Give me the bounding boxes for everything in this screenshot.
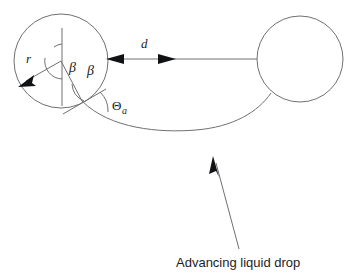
contact-angle-diagram: r β β Θ a d Advancing liquid drop — [0, 0, 356, 279]
radius-arrowhead-icon — [18, 75, 36, 87]
contact-angle-label: Θ — [112, 98, 121, 113]
beta-left-arc — [54, 44, 62, 47]
beta-left-label: β — [68, 60, 76, 75]
radius-label: r — [26, 51, 32, 66]
tangent-line — [63, 89, 106, 114]
right-circle — [257, 16, 343, 102]
caption-pointer-arrowhead-icon — [209, 156, 219, 177]
separation-label: d — [141, 36, 148, 51]
meniscus-curve — [82, 93, 271, 131]
caption-pointer-line — [216, 163, 239, 249]
diagram-canvas: r β β Θ a d Advancing liquid drop — [0, 0, 356, 279]
separation-right-arrowhead-icon — [158, 54, 176, 64]
theta-a-arc — [100, 92, 108, 112]
contact-angle-subscript-label: a — [122, 105, 127, 116]
beta-right-label: β — [86, 63, 94, 78]
caption-label: Advancing liquid drop — [176, 255, 300, 270]
separation-left-arrowhead-icon — [106, 54, 124, 64]
